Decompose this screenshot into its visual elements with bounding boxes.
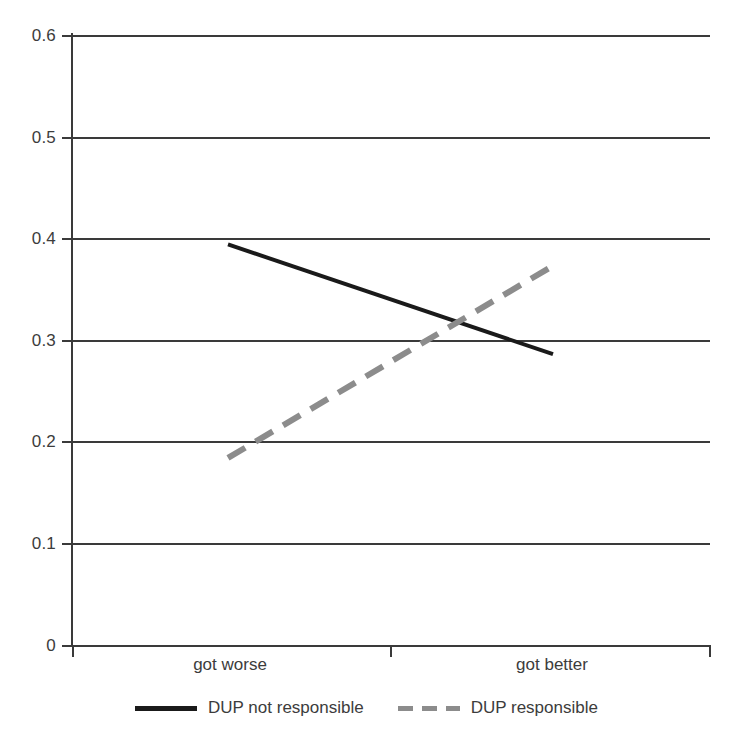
legend-label-dup-responsible: DUP responsible bbox=[471, 698, 598, 718]
x-tick-mark-middle bbox=[390, 645, 392, 657]
plot-area bbox=[72, 35, 710, 645]
y-tick-label-0.5: 0.5 bbox=[0, 129, 56, 146]
x-tick-label-got-worse: got worse bbox=[193, 655, 267, 675]
x-tick-label-got-better: got better bbox=[516, 655, 588, 675]
line-chart: 0.6 0.5 0.4 0.3 0.2 0.1 0 got worse got … bbox=[0, 0, 733, 747]
gridline-0.2 bbox=[72, 441, 710, 443]
legend: DUP not responsible DUP responsible bbox=[0, 698, 733, 718]
legend-swatch-solid-line-icon bbox=[135, 706, 197, 711]
legend-label-dup-not-responsible: DUP not responsible bbox=[208, 698, 364, 718]
legend-swatch-dashed-line-icon bbox=[398, 706, 460, 711]
gridline-0.6 bbox=[72, 35, 710, 37]
y-axis-labels: 0.6 0.5 0.4 0.3 0.2 0.1 0 bbox=[0, 0, 56, 747]
x-tick-mark-start bbox=[72, 645, 74, 657]
y-tick-label-0.3: 0.3 bbox=[0, 332, 56, 349]
y-tick-label-0.4: 0.4 bbox=[0, 230, 56, 247]
x-tick-mark-end bbox=[709, 645, 711, 657]
legend-item-dup-responsible: DUP responsible bbox=[398, 698, 598, 718]
gridline-0.4 bbox=[72, 238, 710, 240]
y-tick-label-0.1: 0.1 bbox=[0, 535, 56, 552]
gridline-0.3 bbox=[72, 340, 710, 342]
y-tick-label-0.6: 0.6 bbox=[0, 27, 56, 44]
gridline-0.5 bbox=[72, 137, 710, 139]
legend-item-dup-not-responsible: DUP not responsible bbox=[135, 698, 364, 718]
y-tick-label-0.2: 0.2 bbox=[0, 433, 56, 450]
y-tick-label-0: 0 bbox=[0, 637, 56, 654]
gridline-0.1 bbox=[72, 543, 710, 545]
